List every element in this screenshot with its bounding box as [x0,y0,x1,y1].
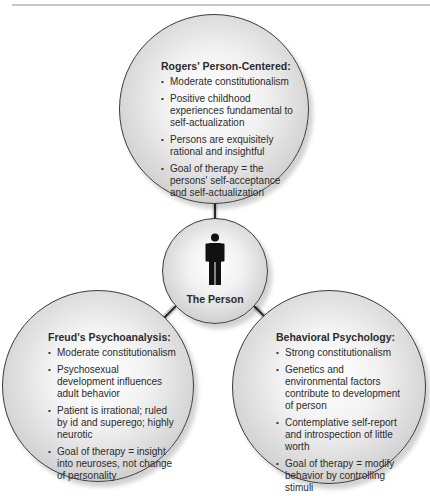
freud-content: Freud's Psychoanalysis: Moderate constit… [48,331,176,487]
list-item: Moderate constitutionalism [161,76,296,88]
rogers-heading: Rogers' Person-Centered: [161,60,296,72]
list-item: Goal of therapy = the persons' self-acce… [161,163,296,199]
list-item: Psychosexual development influences adul… [48,364,176,400]
list-item: Contemplative self-report and introspect… [276,417,404,453]
rogers-list: Moderate constitutionalism Positive chil… [161,76,296,199]
person-label: The Person [162,293,268,305]
list-item: Patient is irrational; ruled by id and s… [48,405,176,441]
list-item: Goal of therapy = modify behavior by con… [276,458,404,494]
list-item: Strong constitutionalism [276,347,404,359]
list-item: Moderate constitutionalism [48,347,176,359]
person-icon [205,233,225,285]
list-item: Persons are exquisitely rational and ins… [161,134,296,158]
list-item: Goal of therapy = insight into neuroses,… [48,446,176,482]
freud-list: Moderate constitutionalism Psychosexual … [48,347,176,482]
behavioral-heading: Behavioral Psychology: [276,331,404,343]
list-item: Positive childhood experiences fundament… [161,93,296,129]
list-item: Genetics and environmental factors contr… [276,364,404,412]
freud-heading: Freud's Psychoanalysis: [48,331,176,343]
behavioral-list: Strong constitutionalism Genetics and en… [276,347,404,494]
rogers-content: Rogers' Person-Centered: Moderate consti… [161,60,296,204]
behavioral-content: Behavioral Psychology: Strong constituti… [276,331,404,496]
